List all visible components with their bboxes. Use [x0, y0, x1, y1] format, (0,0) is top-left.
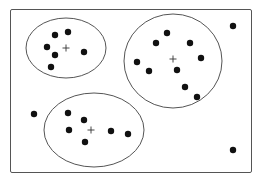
data-point: [194, 94, 200, 100]
data-point: [187, 40, 193, 46]
data-point: [65, 29, 71, 35]
cluster-diagram: [0, 0, 257, 176]
data-point: [52, 52, 58, 58]
outlier-point: [31, 111, 37, 117]
centroid-plus-icon: [63, 45, 70, 52]
cluster-bottom: [44, 93, 144, 167]
cluster-right: [124, 14, 222, 108]
data-point: [182, 84, 188, 90]
data-point: [146, 68, 152, 74]
data-point: [44, 44, 50, 50]
cluster-top-left: [26, 18, 106, 78]
data-point: [153, 40, 159, 46]
data-point: [125, 131, 131, 137]
data-point: [198, 55, 204, 61]
outlier-point: [230, 23, 236, 29]
diagram-frame: [11, 10, 252, 173]
data-point: [134, 59, 140, 65]
clusters-group: [26, 14, 222, 167]
data-point: [81, 49, 87, 55]
outliers-group: [31, 23, 236, 153]
data-point: [82, 139, 88, 145]
data-point: [174, 67, 180, 73]
data-point: [108, 128, 114, 134]
centroid-plus-icon: [88, 127, 95, 134]
data-point: [66, 127, 72, 133]
data-point: [52, 32, 58, 38]
data-point: [81, 117, 87, 123]
data-point: [48, 64, 54, 70]
centroid-plus-icon: [170, 56, 177, 63]
outlier-point: [230, 147, 236, 153]
data-point: [65, 110, 71, 116]
data-point: [164, 30, 170, 36]
